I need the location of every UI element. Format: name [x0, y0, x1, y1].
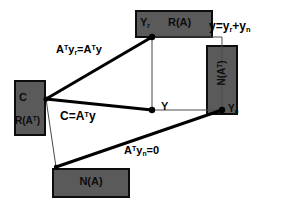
four-subspaces-diagram: C R(AT) Yr R(A) N(AT) Yn N(A) y=yr+yn AT…	[0, 0, 284, 203]
point-y-label: Y	[161, 101, 168, 112]
left-null-na-text: N(A	[216, 68, 227, 86]
row-space-paren-text: )	[37, 115, 40, 126]
guide-line-c-to-origin	[46, 99, 56, 167]
eq-cdef-c-text: C	[60, 109, 69, 123]
eq-cdef-y-text: y	[89, 109, 96, 123]
eq-decomp-plus-text: +y	[232, 19, 246, 33]
point-c-dot	[43, 96, 48, 101]
row-space-c-text: C	[19, 91, 27, 103]
left-null-space-point-label: Yn	[228, 104, 238, 115]
equation-decomposition: y=yr+yn	[209, 20, 251, 33]
range-box-point-label: Yr	[140, 17, 150, 29]
range-ra-text: R(A)	[168, 16, 191, 28]
eq-proj-eq-text: =A	[77, 43, 91, 55]
point-origin-dot	[54, 165, 58, 169]
eq-proj-y2-text: y	[96, 43, 102, 55]
point-yr-dot	[149, 34, 155, 40]
null-space-na-text: N(A)	[79, 175, 102, 187]
eq-decomp-sub2-text: n	[246, 25, 251, 34]
eq-cdef-eq-text: =A	[69, 109, 85, 123]
eq-decomp-lhs-text: y	[209, 19, 216, 33]
left-null-space-name-label: N(AT)	[217, 49, 227, 97]
left-null-yn-sub-text: n	[235, 107, 239, 114]
equation-c-definition: C=ATy	[60, 110, 96, 122]
row-space-point-label: C	[19, 92, 27, 103]
range-yr-sub-text: r	[147, 22, 150, 29]
eq-orth-eq-text: =0	[147, 144, 160, 156]
eq-proj-a1-text: A	[56, 43, 64, 55]
left-null-yn-text: Y	[228, 103, 235, 114]
range-box-space-label: R(A)	[168, 17, 191, 28]
row-space-name-label: R(AT)	[15, 116, 40, 126]
point-yn-dot	[219, 107, 225, 113]
left-null-paren-text: )	[216, 60, 227, 63]
point-y-text: Y	[161, 100, 168, 112]
eq-orth-a-text: A	[124, 144, 132, 156]
point-y-dot	[149, 107, 155, 113]
left-null-transpose-text: T	[216, 64, 223, 68]
row-space-ra-text: R(A	[15, 115, 33, 126]
equation-orthogonality: ATyn=0	[124, 145, 159, 157]
equation-projection: ATyr=ATy	[56, 44, 102, 56]
eq-decomp-eq-text: =y	[216, 19, 230, 33]
null-space-name-label: N(A)	[52, 176, 130, 187]
